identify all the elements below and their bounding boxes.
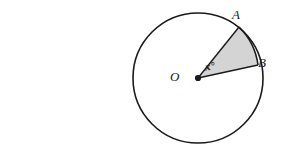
label-center-o: O [170, 70, 179, 83]
label-point-b: B [258, 56, 266, 69]
label-angle-x: x° [204, 60, 216, 72]
label-point-a: A [232, 8, 240, 21]
geometry-figure: O A B x° [0, 0, 282, 155]
circle-sector-diagram [0, 0, 282, 155]
center-point-dot [195, 75, 201, 81]
